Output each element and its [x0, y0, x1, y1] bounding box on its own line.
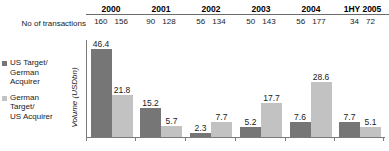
bar-value-us-2004: 7.6 — [294, 112, 306, 122]
transactions-row-label: No of transactions — [0, 15, 86, 28]
x-axis-tick-2 — [185, 137, 186, 141]
y-axis-title: Volume (USDbn) — [68, 56, 80, 138]
bar-value-us-2001: 15.2 — [142, 98, 159, 108]
bar-value-us-2000: 46.4 — [93, 39, 110, 49]
legend-swatch-icon-dark — [2, 61, 7, 66]
count-de-2003: 143 — [262, 17, 275, 26]
y-axis-title-text: Volume (USDbn) — [70, 67, 79, 127]
header-corner-spacer — [0, 0, 86, 14]
bar-group-1hy2005: 7.7 5.1 — [335, 42, 385, 137]
x-axis-tick-1 — [135, 137, 136, 141]
bar-de-2000: 21.8 — [112, 95, 133, 137]
bar-us-2002: 2.3 — [190, 133, 211, 137]
count-us-2003: 50 — [246, 17, 255, 26]
transactions-cell-2003: 50 143 — [236, 15, 286, 28]
bar-value-de-1hy2005: 5.1 — [365, 117, 377, 127]
transactions-cell-1hy2005: 34 72 — [336, 15, 389, 28]
count-us-2004: 56 — [296, 17, 305, 26]
bar-de-2004: 28.6 — [311, 82, 332, 137]
transactions-cell-2000: 160 156 — [86, 15, 136, 28]
count-de-2002: 134 — [212, 17, 225, 26]
bar-value-de-2000: 21.8 — [114, 85, 131, 95]
x-axis-tick-3 — [235, 137, 236, 141]
x-axis-tick-4 — [285, 137, 286, 141]
transaction-counts-row: No of transactions 160 156 90 128 56 134 — [0, 15, 389, 28]
count-de-2001: 128 — [162, 17, 175, 26]
legend-item-german-target-us-acquirer: German Target/ US Acquirer — [2, 93, 68, 122]
legend-swatch-icon-light — [2, 96, 7, 101]
bar-value-us-1hy2005: 7.7 — [344, 112, 356, 122]
bar-us-2003: 5.2 — [240, 127, 261, 137]
count-us-2001: 90 — [146, 17, 155, 26]
year-header-1: 2001 — [136, 0, 186, 14]
x-axis-tick-5 — [334, 137, 335, 141]
transactions-cell-2001: 90 128 — [136, 15, 186, 28]
plot-area: 46.4 21.8 15.2 5.7 — [86, 40, 385, 140]
year-header-row: 2000 2001 2002 2003 2004 1HY 2005 — [0, 0, 389, 14]
bar-us-2001: 15.2 — [140, 108, 161, 137]
bar-group-2002: 2.3 7.7 — [186, 42, 236, 137]
bar-us-1hy2005: 7.7 — [339, 122, 360, 137]
year-header-0: 2000 — [86, 0, 136, 14]
bar-groups: 46.4 21.8 15.2 5.7 — [87, 42, 385, 137]
bar-us-2000: 46.4 — [91, 49, 112, 137]
transactions-cell-2002: 56 134 — [186, 15, 236, 28]
bar-us-2004: 7.6 — [290, 122, 311, 137]
bar-value-de-2004: 28.6 — [313, 72, 330, 82]
bar-de-2003: 17.7 — [261, 103, 282, 137]
bar-group-2003: 5.2 17.7 — [236, 42, 286, 137]
legend-item-us-target-german-acquirer: US Target/ German Acquirer — [2, 58, 68, 87]
bar-de-2001: 5.7 — [161, 126, 182, 137]
bar-de-2002: 7.7 — [211, 122, 232, 137]
count-de-1hy2005: 72 — [366, 17, 375, 26]
year-header-3: 2003 — [236, 0, 286, 14]
x-axis-tick-0 — [86, 137, 87, 141]
year-header-4: 2004 — [286, 0, 336, 14]
bar-value-us-2003: 5.2 — [245, 117, 257, 127]
count-us-2002: 56 — [196, 17, 205, 26]
bar-value-de-2002: 7.7 — [216, 112, 228, 122]
chart-figure: 2000 2001 2002 2003 2004 1HY 2005 No of … — [0, 0, 389, 151]
legend-label-1: German Target/ US Acquirer — [10, 93, 53, 122]
bar-value-de-2003: 17.7 — [263, 93, 280, 103]
count-us-2000: 160 — [94, 17, 107, 26]
bar-de-1hy2005: 5.1 — [360, 127, 381, 137]
year-header-5: 1HY 2005 — [336, 0, 389, 14]
transactions-cell-2004: 56 177 — [286, 15, 336, 28]
bar-group-2000: 46.4 21.8 — [87, 42, 136, 137]
x-axis-tick-6 — [383, 137, 384, 141]
bar-value-de-2001: 5.7 — [166, 116, 178, 126]
count-de-2000: 156 — [115, 17, 128, 26]
bar-group-2004: 7.6 28.6 — [286, 42, 335, 137]
chart-legend: US Target/ German Acquirer German Target… — [2, 58, 68, 127]
bar-value-us-2002: 2.3 — [195, 123, 207, 133]
transactions-header-table: 2000 2001 2002 2003 2004 1HY 2005 No of … — [0, 0, 389, 28]
bar-group-2001: 15.2 5.7 — [136, 42, 186, 137]
legend-label-0: US Target/ German Acquirer — [10, 58, 48, 87]
count-us-1hy2005: 34 — [350, 17, 359, 26]
count-de-2004: 177 — [312, 17, 325, 26]
year-header-2: 2002 — [186, 0, 236, 14]
